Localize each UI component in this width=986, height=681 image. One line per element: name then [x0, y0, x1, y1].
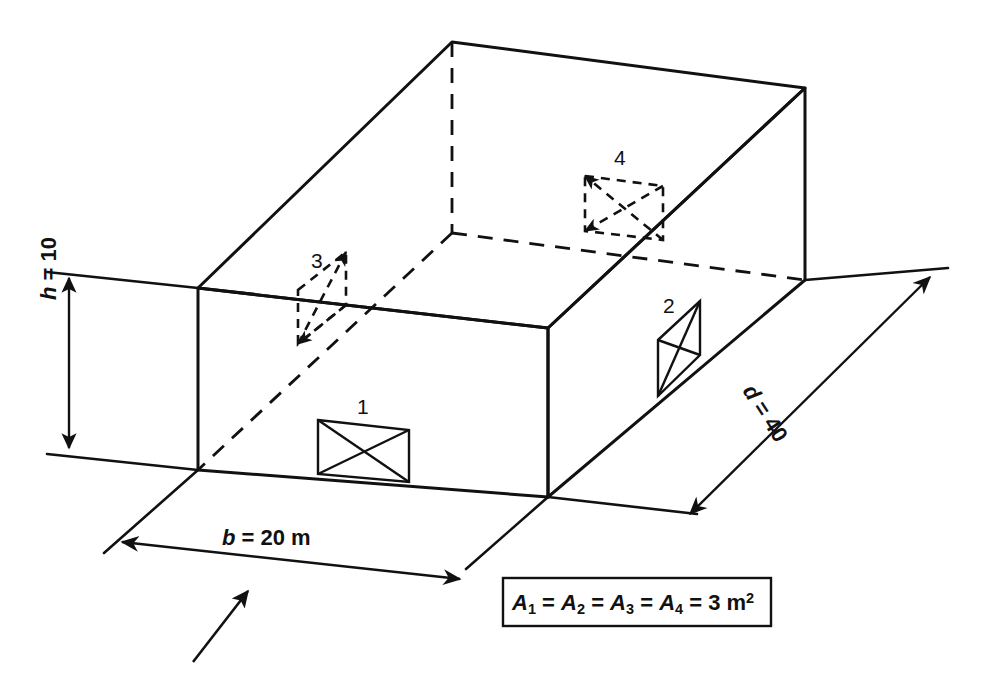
- dimension-depth: [690, 277, 930, 514]
- wind-direction-arrow: [193, 591, 248, 662]
- wind-arrow-shaft: [193, 591, 248, 662]
- ground-line-b-base: [466, 497, 548, 569]
- ground-plane-lines: [47, 268, 948, 569]
- ground-line-right: [805, 268, 948, 280]
- height-dimension-label: h = 10: [38, 237, 60, 300]
- opening-2-label: 2: [663, 295, 675, 316]
- diagram-canvas: 1 2 3 4 h = 10 b = 20 m d = 40 A1 = A2 =…: [0, 0, 986, 681]
- opening-1-diagonal-b: [318, 430, 409, 474]
- building-isometric-figure: [0, 0, 986, 681]
- box-solid-edges: [198, 42, 805, 497]
- box-hidden-edges: [198, 42, 805, 470]
- ground-line-front-right-ext: [548, 497, 697, 514]
- opening-1-shape: [318, 420, 409, 482]
- ground-line-lower-left: [47, 454, 198, 470]
- front-wall: [198, 288, 548, 497]
- opening-4-label: 4: [614, 147, 626, 168]
- hidden-edge-back-bottom: [452, 233, 805, 280]
- breadth-dimension-label: b = 20 m: [222, 527, 311, 549]
- ground-line-front-left-ext: [104, 470, 198, 553]
- opening-area-note: A1 = A2 = A3 = A4 = 3 m2: [512, 592, 754, 614]
- opening-1-label: 1: [357, 396, 369, 417]
- opening-3-label: 3: [311, 250, 323, 271]
- depth-dimension-arrow: [690, 277, 930, 514]
- top-face: [198, 42, 805, 328]
